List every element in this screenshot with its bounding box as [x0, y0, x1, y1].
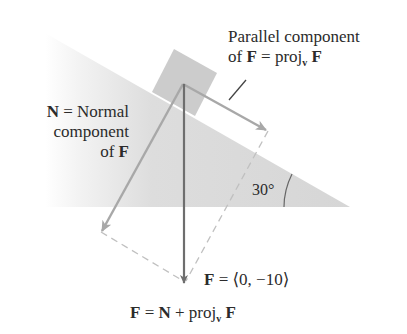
- angle-label: 30°: [252, 180, 274, 200]
- parallel-label: Parallel component of F = projv F: [228, 27, 360, 73]
- parallel-label-line1: Parallel component: [228, 27, 360, 47]
- pointer-line: [229, 80, 246, 100]
- normal-label-line3: of F: [20, 142, 129, 162]
- parallel-label-line2: of F = projv F: [228, 47, 360, 73]
- decomposition-equation: F = N + projv F: [130, 303, 236, 329]
- dashed-line-normal: [101, 232, 180, 279]
- normal-label-line1: N = Normal: [20, 102, 129, 122]
- diagram-canvas: Parallel component of F = projv F N = No…: [0, 0, 407, 334]
- force-label: F = ⟨0, −10⟩: [204, 270, 289, 290]
- normal-label-line2: component: [20, 122, 129, 142]
- normal-label: N = Normal component of F: [20, 102, 129, 162]
